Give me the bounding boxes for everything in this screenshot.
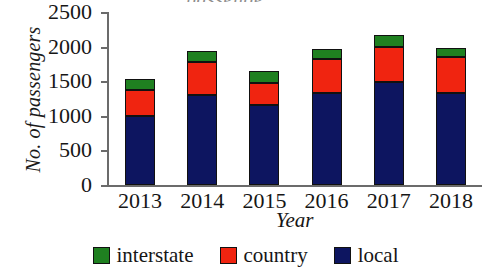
y-tick: 2500 [101, 12, 109, 14]
y-tick: 0 [101, 185, 109, 187]
y-tick: 1000 [101, 116, 109, 118]
legend-label: local [358, 245, 399, 266]
bar-segment-country [187, 62, 217, 95]
y-tick: 500 [101, 150, 109, 152]
y-tick-label: 2500 [48, 1, 92, 23]
bar-segment-country [249, 83, 279, 105]
legend-swatch-local [334, 247, 351, 264]
y-axis-title: No. of passengers [22, 5, 45, 195]
y-tick: 2000 [101, 47, 109, 49]
y-tick-label: 1500 [48, 70, 92, 92]
bar-segment-country [125, 90, 155, 116]
chart-title-remnant: passenge [186, 0, 306, 2]
bar-segment-country [436, 57, 466, 93]
x-axis-title: Year [107, 208, 482, 233]
bar-segment-interstate [187, 51, 217, 62]
y-tick-label: 500 [59, 139, 92, 161]
bar-segment-local [374, 82, 404, 185]
chart-legend: interstatecountrylocal [0, 245, 491, 266]
stacked-bar-chart: passenge No. of passengers 0500100015002… [0, 0, 491, 280]
legend-swatch-country [220, 247, 237, 264]
bar-series-container [109, 12, 482, 185]
legend-item-local: local [334, 245, 399, 266]
bar-segment-local [436, 93, 466, 185]
bar-segment-local [249, 105, 279, 185]
legend-item-interstate: interstate [93, 245, 194, 266]
bar-segment-local [187, 95, 217, 185]
bar-segment-country [312, 59, 342, 93]
y-tick: 1500 [101, 81, 109, 83]
bar-segment-interstate [312, 49, 342, 59]
bar-segment-interstate [436, 48, 466, 57]
legend-swatch-interstate [93, 247, 110, 264]
y-tick-label: 1000 [48, 104, 92, 126]
bar-segment-interstate [374, 35, 404, 47]
y-tick-label: 0 [81, 174, 92, 196]
legend-label: country [244, 245, 308, 266]
legend-item-country: country [220, 245, 308, 266]
bar-segment-interstate [125, 79, 155, 90]
bar-segment-local [312, 93, 342, 185]
legend-label: interstate [117, 245, 194, 266]
bar-segment-local [125, 116, 155, 185]
plot-area: 05001000150020002500 2013201420152016201… [107, 12, 482, 186]
x-axis-line [107, 185, 482, 187]
bar-segment-interstate [249, 71, 279, 83]
bar-segment-country [374, 47, 404, 82]
y-tick-label: 2000 [48, 35, 92, 57]
